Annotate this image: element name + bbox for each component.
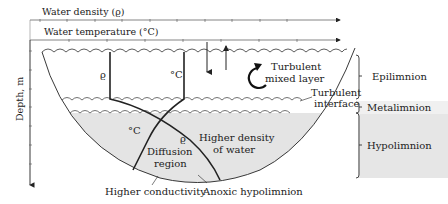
turbulent-interface-label-2: interface [314, 98, 360, 109]
density-axis-label: Water density (ϱ) [42, 6, 125, 17]
depth-axis-label: Depth, m [14, 77, 25, 121]
metalimnion-label: Metalimnion [367, 102, 432, 113]
interface-wave-lower [70, 111, 290, 114]
lake-stratification-diagram: Water density (ϱ) Water temperature (°C)… [0, 0, 448, 204]
hypolimnion-label: Hypolimnion [367, 140, 432, 151]
hypolimnion-fill [40, 113, 360, 193]
density-symbol-lower: ϱ [180, 133, 186, 144]
temperature-axis-label: Water temperature (°C) [44, 26, 159, 37]
depth-axis [29, 40, 32, 185]
conductivity-pointer [152, 176, 158, 185]
turbulent-mixed-label-2: mixed layer [265, 73, 325, 84]
interface-pointer [300, 97, 312, 101]
diffusion-label-1: Diffusion [147, 146, 193, 157]
anoxic-hypolimnion-label: Anoxic hypolimnion [202, 186, 303, 197]
turbulent-mixed-label-1: Turbulent [271, 61, 321, 72]
higher-density-label-1: Higher density [199, 132, 275, 143]
epilimnion-label: Epilimnion [372, 71, 427, 82]
temperature-symbol-lower: °C [128, 125, 141, 136]
turbulent-interface-label-1: Turbulent [311, 87, 361, 98]
diffusion-label-2: region [154, 158, 187, 169]
circular-arrow-icon [249, 68, 266, 88]
density-symbol-upper: ϱ [100, 69, 106, 80]
temperature-symbol-upper: °C [170, 69, 183, 80]
higher-density-label-2: of water [213, 144, 255, 155]
higher-conductivity-label: Higher conductivity [105, 186, 206, 197]
water-surface [42, 49, 347, 52]
